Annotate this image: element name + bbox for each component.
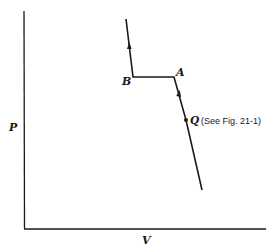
isotherm-curve <box>126 19 202 190</box>
arrow-up-icon <box>127 42 132 49</box>
pv-diagram: P V B A Q (See Fig. 21-1) <box>0 0 279 251</box>
point-b-label: B <box>121 75 131 88</box>
point-a-label: A <box>175 66 185 79</box>
y-axis-label: P <box>8 121 18 134</box>
curve-path <box>126 19 202 190</box>
point-q-label: Q <box>190 114 199 126</box>
y-axis <box>24 11 25 229</box>
point-q-marker <box>184 118 188 122</box>
x-axis-label: V <box>142 234 152 247</box>
direction-arrows <box>127 42 181 97</box>
point-q-annotation: (See Fig. 21-1) <box>201 116 261 126</box>
